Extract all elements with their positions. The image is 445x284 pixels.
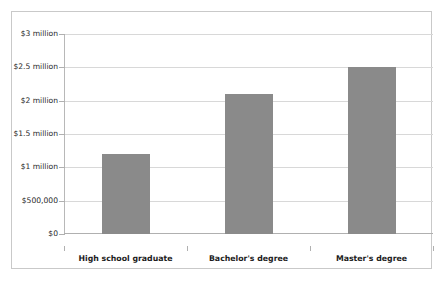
y-tick-mark-2	[59, 167, 65, 168]
chart-frame: $0$500,000$1 million$1.5 million$2 milli…	[11, 11, 432, 269]
x-tick-mark-3	[433, 246, 434, 251]
y-tick-mark-4	[59, 101, 65, 102]
y-tick-mark-5	[59, 67, 65, 68]
x-axis-category-label: Master's degree	[282, 255, 445, 263]
x-tick-mark-1	[187, 246, 188, 251]
bar-0	[102, 154, 150, 234]
y-tick-mark-0	[59, 234, 65, 235]
y-axis-tick-label: $0	[0, 230, 58, 238]
y-axis-tick-label: $1.5 million	[0, 130, 58, 138]
x-tick-mark-2	[310, 246, 311, 251]
y-axis-tick-label: $2 million	[0, 97, 58, 105]
gridline-6	[64, 34, 433, 35]
y-axis-tick-label: $2.5 million	[0, 63, 58, 71]
y-tick-mark-6	[59, 34, 65, 35]
bar-2	[348, 67, 396, 234]
bar-chart-figure: $0$500,000$1 million$1.5 million$2 milli…	[0, 0, 445, 284]
y-axis-tick-label: $3 million	[0, 30, 58, 38]
bar-1	[225, 94, 273, 234]
y-tick-mark-3	[59, 134, 65, 135]
x-tick-mark-0	[64, 246, 65, 251]
plot-area	[64, 34, 433, 234]
y-axis-tick-label: $1 million	[0, 163, 58, 171]
y-tick-mark-1	[59, 201, 65, 202]
y-axis-tick-label: $500,000	[0, 197, 58, 205]
